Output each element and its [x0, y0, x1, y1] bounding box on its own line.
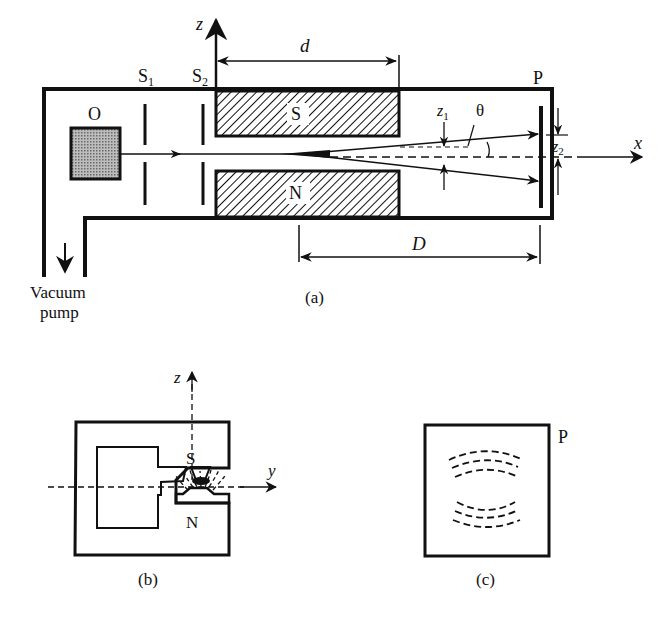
magnet-north-label: N [289, 183, 302, 203]
pump-label-line2: pump [40, 303, 79, 322]
oven-label: O [88, 104, 101, 124]
slit-2-label: S2 [192, 66, 208, 89]
b-pole-S: S [186, 449, 195, 468]
x-axis-label: x [633, 133, 642, 153]
oven [71, 128, 120, 179]
z-axis-label: z [195, 14, 203, 34]
magnet-south-label: S [291, 104, 301, 124]
b-pole-N: N [186, 513, 198, 532]
caption-c: (c) [476, 570, 495, 589]
slit-1-label: S1 [138, 66, 154, 89]
theta-label: θ [476, 101, 484, 120]
theta-arc [487, 142, 489, 157]
theta-leader [468, 125, 474, 146]
north-pole-tip [176, 488, 229, 503]
plate-label: P [533, 68, 543, 88]
panel-a: Vacuum pump O S1 S2 S N z d [30, 14, 642, 322]
z2-label: z2 [551, 138, 564, 157]
b-z-label: z [173, 368, 181, 387]
panel-c: P (c) [425, 425, 568, 589]
panel-b: z y S N (b) [48, 368, 276, 589]
photo-plate-front [425, 425, 549, 556]
stern-gerlach-diagram: Vacuum pump O S1 S2 S N z d [0, 0, 667, 617]
caption-b: (b) [138, 570, 158, 589]
b-y-label: y [266, 461, 276, 480]
field-focus [192, 477, 210, 485]
caption-a: (a) [305, 288, 324, 307]
deposit-lines-upper [449, 451, 521, 477]
z1-label: z1 [436, 102, 449, 122]
pump-label-line1: Vacuum [30, 283, 86, 302]
D-label: D [411, 233, 426, 254]
deposit-lines-lower [453, 502, 520, 527]
c-plate-label: P [558, 427, 568, 447]
d-label: d [300, 35, 310, 56]
